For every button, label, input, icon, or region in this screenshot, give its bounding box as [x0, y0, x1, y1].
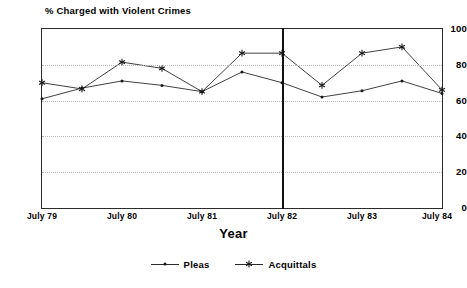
dot-marker	[241, 70, 244, 73]
legend-label: Pleas	[184, 259, 210, 270]
gridline	[42, 65, 442, 66]
star-marker	[246, 261, 252, 268]
dot-marker	[161, 84, 164, 87]
legend-item-pleas[interactable]: Pleas	[151, 258, 210, 270]
series-pleas	[41, 70, 444, 100]
dot-marker	[121, 79, 124, 82]
chart-title: % Charged with Violent Crimes	[45, 5, 191, 16]
dot-marker	[401, 79, 404, 82]
x-tick-label: July 82	[267, 211, 297, 221]
star-marker	[319, 82, 325, 89]
plot-area	[41, 28, 443, 209]
gridline	[42, 136, 442, 137]
chart-figure: % Charged with Violent Crimes 0204060801…	[0, 0, 467, 288]
dot-marker	[163, 263, 166, 266]
x-axis-title: Year	[0, 226, 467, 241]
gridline	[42, 172, 442, 173]
legend-label: Acquittals	[268, 259, 316, 270]
dot-marker	[321, 96, 324, 99]
series-layer	[42, 29, 442, 208]
x-tick-label: July 80	[107, 211, 137, 221]
dot-marker	[361, 89, 364, 92]
x-tick-label: July 81	[187, 211, 217, 221]
chart-legend: PleasAcquittals	[0, 258, 467, 270]
legend-star-icon	[235, 258, 263, 270]
x-tick-label: July 79	[27, 211, 57, 221]
legend-item-acquittals[interactable]: Acquittals	[235, 258, 316, 270]
series-acquittals	[39, 44, 445, 96]
x-tick-label: July 83	[347, 211, 377, 221]
gridline	[42, 101, 442, 102]
period-divider-line	[282, 28, 284, 209]
legend-dot-icon	[151, 258, 179, 270]
x-tick-label: July 84	[422, 211, 452, 221]
